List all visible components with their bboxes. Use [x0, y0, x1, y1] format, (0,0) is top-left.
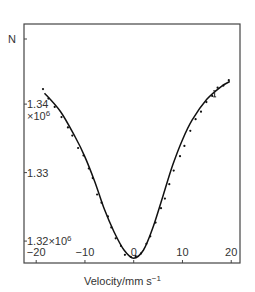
data-point: [149, 235, 151, 237]
data-point: [200, 111, 202, 113]
data-point: [135, 255, 137, 257]
data-point: [88, 167, 90, 169]
y-tick-scale-label: ×106: [27, 109, 51, 122]
x-tick-label: −20: [27, 246, 46, 258]
data-point: [217, 87, 219, 89]
data-point: [168, 183, 170, 185]
data-point: [71, 135, 73, 137]
data-point: [145, 243, 147, 245]
data-point: [222, 85, 224, 87]
data-point: [107, 215, 109, 217]
data-point: [173, 170, 175, 172]
data-point: [228, 79, 230, 81]
data-point: [110, 226, 112, 228]
fit-curve: [45, 82, 230, 259]
data-point: [77, 147, 79, 149]
x-tick-label: −10: [76, 246, 95, 258]
data-point: [100, 202, 102, 204]
data-point: [164, 198, 166, 200]
x-axis-title-superscript: −1: [152, 274, 162, 283]
data-point: [115, 237, 117, 239]
data-point: [189, 130, 191, 132]
chart: N 1.34×1061.331.32×106 −20−1001020 Veloc…: [0, 0, 255, 292]
x-axis-title: Velocity/mm s−1: [84, 274, 162, 287]
data-point: [160, 207, 162, 209]
series-layer: [42, 79, 230, 258]
x-tick-label: 10: [176, 246, 188, 258]
y-axis-label: N: [8, 33, 16, 45]
y-tick-label: 1.33: [27, 167, 48, 179]
data-point: [96, 193, 98, 195]
data-point: [60, 116, 62, 118]
data-point: [67, 126, 69, 128]
x-ticks: −20−1001020: [27, 246, 237, 263]
data-point: [130, 256, 132, 258]
data-point: [183, 145, 185, 147]
data-point: [82, 154, 84, 156]
data-point: [54, 106, 56, 108]
data-point: [155, 222, 157, 224]
x-tick-label: 20: [225, 246, 237, 258]
data-point: [92, 177, 94, 179]
data-point: [120, 245, 122, 247]
data-point: [211, 95, 213, 97]
x-axis-title-text: Velocity/mm s: [84, 275, 152, 287]
data-point: [140, 252, 142, 254]
data-point: [205, 101, 207, 103]
data-point: [47, 98, 49, 100]
data-point: [124, 254, 126, 256]
data-point: [42, 88, 44, 90]
plot-frame: [24, 24, 240, 263]
data-point: [195, 118, 197, 120]
data-point: [179, 155, 181, 157]
y-ticks: 1.34×1061.331.32×106: [24, 98, 72, 247]
